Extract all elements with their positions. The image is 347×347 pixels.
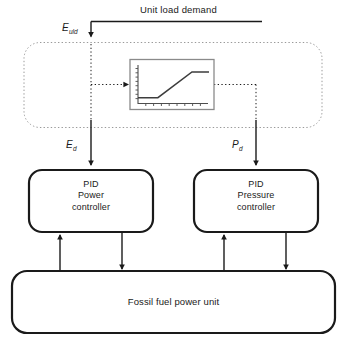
signal-ed-subscript: d: [73, 145, 77, 152]
signal-pd-base: P: [232, 139, 239, 150]
power-controller-line-2: Power: [29, 190, 153, 201]
signal-uld-subscript: uld: [69, 28, 78, 35]
signal-label-uld: Euld: [62, 22, 77, 35]
pressure-controller-line-1: PID: [194, 179, 318, 190]
plant-label: Fossil fuel power unit: [12, 296, 335, 308]
power-controller-label: PID Power controller: [29, 179, 153, 213]
signal-pd-subscript: d: [239, 145, 243, 152]
signal-uld-base: E: [62, 22, 69, 33]
unit-load-demand-bus: [91, 22, 262, 37]
power-controller-line-3: controller: [29, 202, 153, 213]
diagram-title: Unit load demand: [140, 4, 217, 16]
pressure-controller-line-3: controller: [194, 202, 318, 213]
diagram-canvas: [0, 0, 347, 347]
pressure-controller-label: PID Pressure controller: [194, 179, 318, 213]
control-block-diagram: Unit load demand Euld Ed Pd PID Power co…: [0, 0, 347, 347]
signal-ed-base: E: [66, 139, 73, 150]
power-controller-line-1: PID: [29, 179, 153, 190]
pressure-controller-line-2: Pressure: [194, 190, 318, 201]
signal-label-power-demand: Ed: [66, 139, 76, 152]
signal-label-pressure-demand: Pd: [232, 139, 242, 152]
pressure-characteristic-plot: [130, 60, 214, 110]
